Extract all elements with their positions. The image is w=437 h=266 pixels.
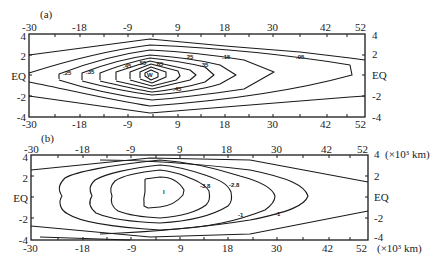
x-tick-label: 52 [357, 143, 368, 155]
x-tick-label: 42 [321, 143, 332, 155]
x-unit-label: (×10³ km) [377, 242, 422, 255]
x-tick-label: 18 [222, 242, 234, 254]
panel-b-right-axis: 4 (×10³ km) 2 EQ -2 -4 [374, 148, 430, 243]
center-label: I [163, 189, 165, 195]
y-tick-label: EQ [372, 69, 387, 81]
y-tick-label: EQ [13, 192, 28, 204]
x-tick-label: 9 [178, 242, 184, 254]
contour-label: .15 [222, 54, 231, 60]
panel-a-label: (a) [40, 8, 53, 21]
y-tick-label: 2 [23, 172, 29, 184]
y-tick-label: -2 [372, 90, 381, 102]
contour-label: .05 [296, 54, 305, 60]
contour-label: -3.8 [200, 183, 211, 189]
contour-label: .55 [138, 60, 147, 66]
y-tick-label: 2 [21, 50, 27, 62]
panel-b-left-axis: 4 2 EQ -2 -4 [13, 151, 28, 246]
x-tick-label: 18 [221, 143, 233, 155]
panel-a-contour-labels: .25 .35 .45 .55 .65 W .25 .35 .15 .05 .4… [63, 54, 305, 92]
y-tick-label: -4 [372, 111, 382, 123]
y-tick-label: 4 [23, 151, 29, 163]
panel-a-ticks [29, 34, 365, 117]
contour-label: .45 [173, 86, 182, 92]
x-tick-label: 9 [175, 21, 181, 33]
panel-a-bottom-axis: -30 -18 -9 9 18 30 42 52 [22, 118, 366, 130]
y-tick-label: -2 [17, 91, 26, 103]
x-tick-label: -18 [75, 242, 90, 254]
x-tick-label: 30 [271, 143, 283, 155]
x-tick-label: 42 [320, 21, 331, 33]
panel-b-contours [31, 158, 368, 240]
x-tick-label: 30 [271, 242, 283, 254]
y-tick-label: 4 [374, 148, 380, 160]
y-tick-label: 2 [374, 170, 380, 182]
contour-label: -2.8 [229, 182, 240, 188]
contour-label: .25 [185, 54, 194, 60]
y-tick-label: EQ [11, 70, 26, 82]
panel-b: (b) -30 -18 -9 9 18 30 42 52 [13, 132, 430, 255]
x-tick-label: -9 [127, 242, 137, 254]
y-tick-label: 2 [372, 48, 378, 60]
y-tick-label: EQ [374, 191, 389, 203]
x-tick-label: 42 [322, 242, 333, 254]
x-tick-label: -9 [123, 21, 133, 33]
x-tick-label: 30 [267, 21, 279, 33]
x-tick-label: 52 [356, 242, 367, 254]
y-tick-label: -2 [19, 213, 28, 225]
x-tick-label: 9 [175, 118, 181, 130]
x-tick-label: 18 [219, 118, 231, 130]
y-tick-label: 4 [372, 29, 378, 41]
contour-label: .25 [63, 70, 72, 76]
x-tick-label: -30 [23, 242, 38, 254]
panel-a-contours [29, 39, 365, 113]
panel-b-contour-labels: I -3.8 -2.8 -1 -1 [163, 182, 281, 218]
x-tick-label: -9 [123, 118, 133, 130]
panel-b-label: (b) [41, 132, 54, 145]
x-tick-label: 52 [355, 118, 366, 130]
panel-b-top-axis: -30 -18 -9 9 18 30 42 52 [24, 143, 368, 155]
contour-label: .65 [155, 61, 164, 67]
x-tick-label: -30 [22, 118, 37, 130]
y-tick-label: 4 [21, 30, 27, 42]
panel-a: (a) -30 -18 -9 9 18 30 42 52 [11, 8, 386, 130]
x-tick-label: -18 [75, 143, 90, 155]
x-tick-label: 52 [355, 21, 366, 33]
x-tick-label: 18 [219, 21, 231, 33]
contour-label: .45 [123, 63, 132, 69]
x-tick-label: 30 [267, 118, 279, 130]
center-label: W [147, 72, 153, 78]
panel-a-frame [29, 34, 365, 117]
contour-label: -1 [238, 212, 244, 218]
x-tick-label: -18 [72, 118, 87, 130]
contour-label: .35 [200, 62, 209, 68]
x-tick-label: 42 [320, 118, 331, 130]
panel-a-top-axis: -30 -18 -9 9 18 30 42 52 [22, 21, 366, 33]
x-tick-label: 9 [177, 143, 183, 155]
contour-label: .35 [86, 69, 95, 75]
x-tick-label: -18 [72, 21, 87, 33]
figure: (a) -30 -18 -9 9 18 30 42 52 [0, 0, 437, 266]
x-tick-label: -9 [126, 143, 136, 155]
panel-b-bottom-axis: -30 -18 -9 9 18 30 42 52 (×10³ km) [23, 242, 422, 255]
y-unit-label: (×10³ km) [385, 148, 430, 161]
panel-a-left-axis: 4 2 EQ -2 -4 [11, 30, 26, 123]
y-tick-label: -2 [374, 212, 383, 224]
contour-label: -1 [275, 211, 281, 217]
panel-a-right-axis: 4 2 EQ -2 -4 [372, 29, 387, 123]
